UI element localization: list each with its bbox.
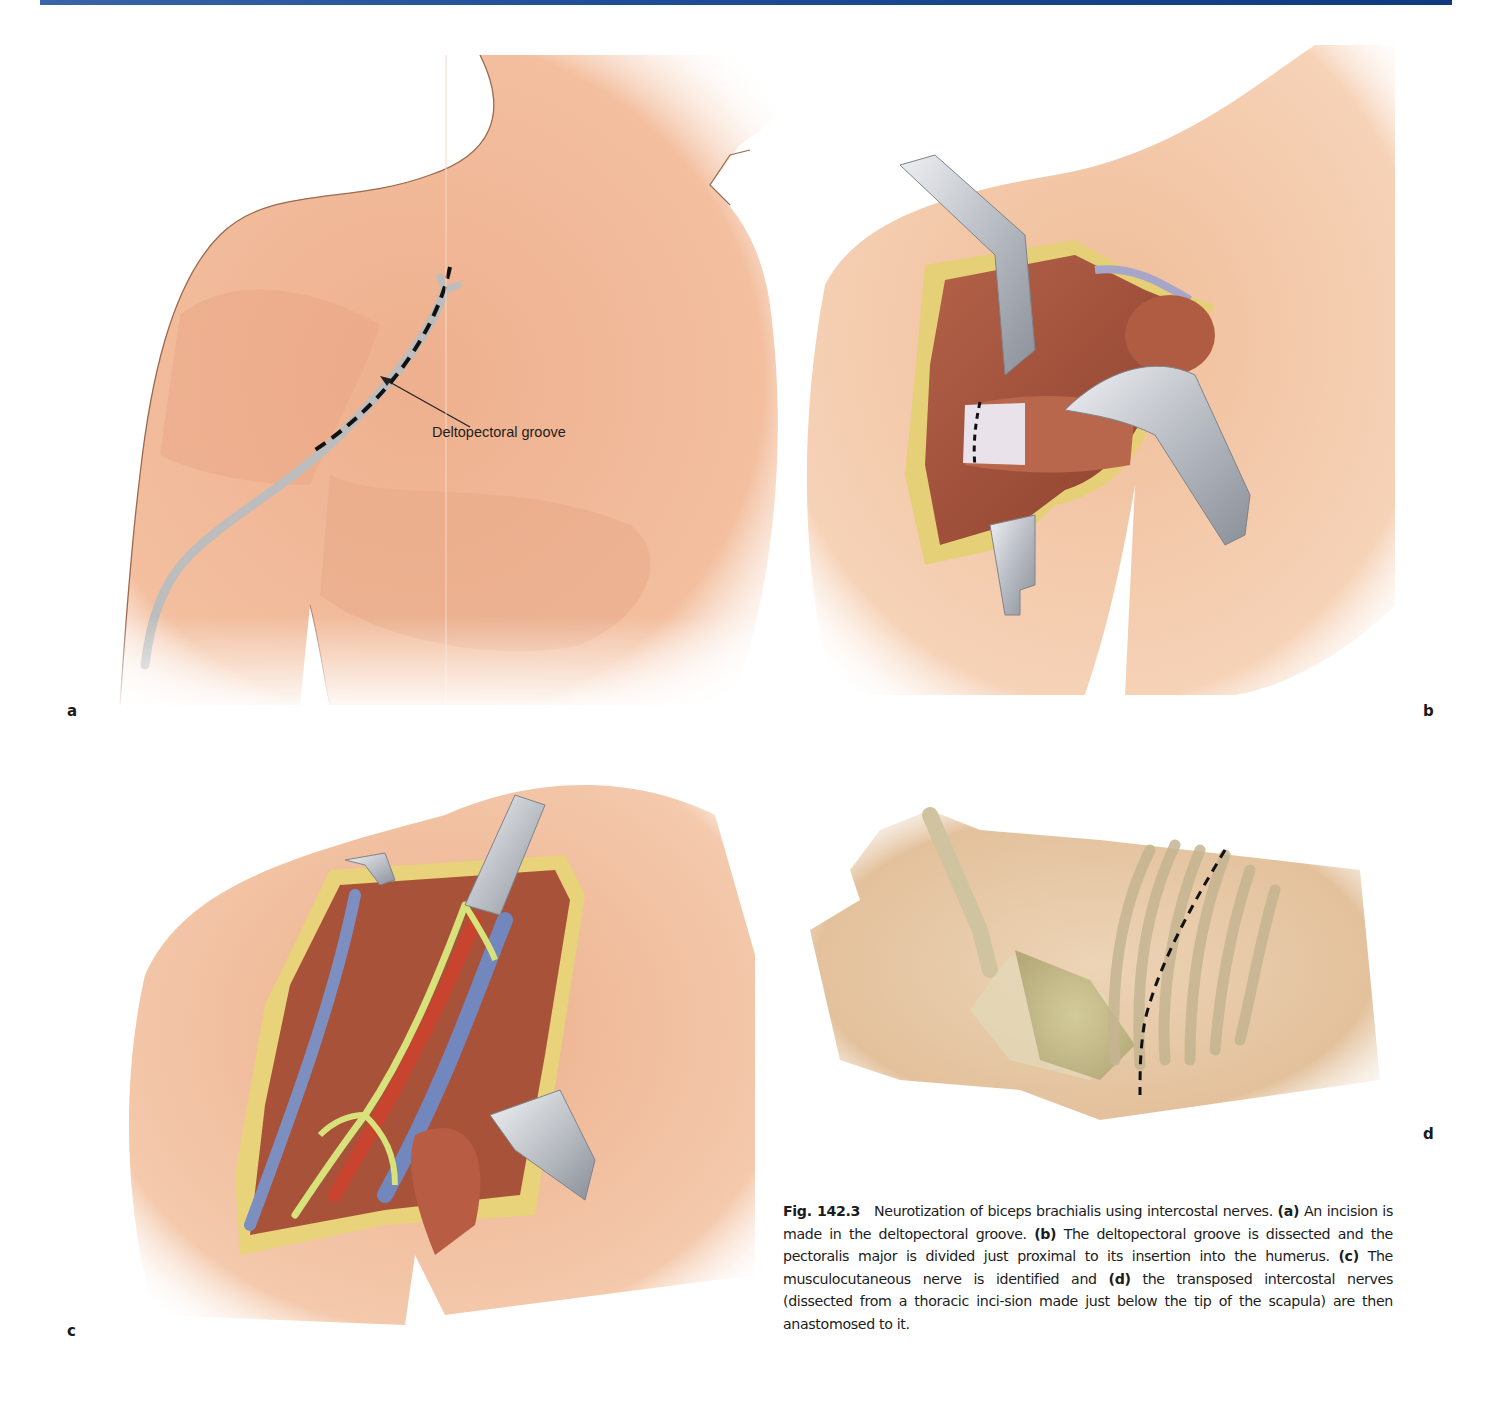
panel-label-d: d <box>1423 1125 1434 1143</box>
panel-label-c: c <box>67 1322 76 1340</box>
panel-label-a: a <box>67 702 77 720</box>
figure-title: Neurotization of biceps brachialis using… <box>874 1203 1273 1219</box>
retracted-pectoralis-illustration <box>795 45 1395 715</box>
figure-panel-a: Deltopectoral groove <box>110 55 790 715</box>
figure-panel-b <box>795 45 1395 715</box>
caption-tag-b: (b) <box>1034 1226 1056 1242</box>
musculocutaneous-nerve-exposure-illustration <box>115 755 765 1335</box>
figure-panel-c <box>115 755 765 1335</box>
figure-caption: Fig. 142.3Neurotization of biceps brachi… <box>783 1200 1393 1336</box>
header-rule <box>40 0 1452 5</box>
shoulder-chest-illustration <box>110 55 790 715</box>
thorax-scapula-incision-illustration <box>800 760 1400 1140</box>
caption-tag-c: (c) <box>1338 1248 1358 1264</box>
figure-panel-d <box>800 760 1400 1140</box>
caption-tag-d: (d) <box>1109 1271 1131 1287</box>
deltopectoral-groove-callout: Deltopectoral groove <box>432 424 566 440</box>
caption-tag-a: (a) <box>1278 1203 1300 1219</box>
panel-label-b: b <box>1423 702 1434 720</box>
figure-number: Fig. 142.3 <box>783 1203 860 1219</box>
